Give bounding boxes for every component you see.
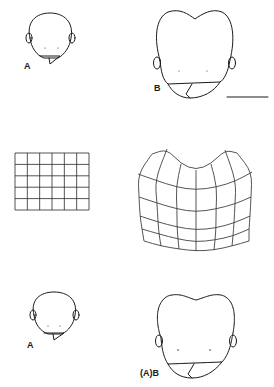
head-outline-ab-bottom bbox=[156, 295, 237, 378]
panel-label-b-top: B bbox=[154, 84, 161, 93]
figure-canvas: A B A (A)B bbox=[0, 0, 274, 387]
eye-icon-right bbox=[69, 33, 75, 43]
panel-label-a-top: A bbox=[24, 62, 31, 71]
deformed-grid bbox=[138, 149, 252, 251]
head-outline-b-top bbox=[154, 11, 236, 98]
panel-label-a-bottom: A bbox=[27, 341, 34, 350]
head-outline-a-bottom bbox=[30, 292, 79, 340]
head-outline-a-top bbox=[26, 13, 75, 64]
figure-drawing bbox=[0, 0, 274, 387]
panel-label-ab-bottom: (A)B bbox=[140, 369, 159, 378]
rectangular-grid bbox=[15, 153, 89, 210]
